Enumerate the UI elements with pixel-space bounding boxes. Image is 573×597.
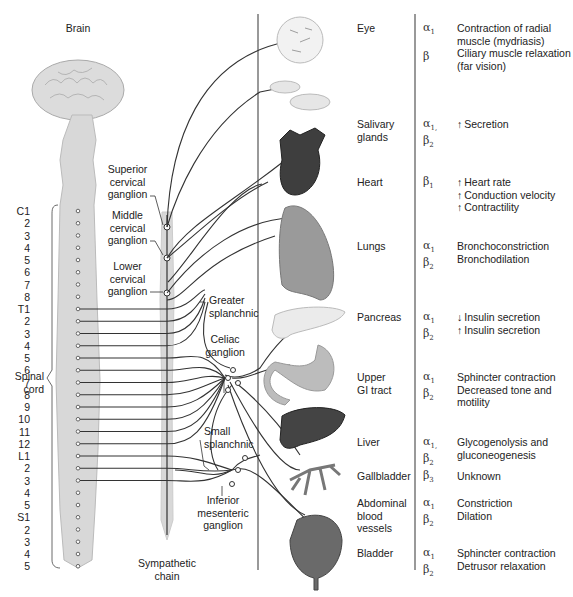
segment-label: 8: [4, 291, 30, 303]
organ-name: Gallbladder: [357, 470, 411, 483]
effect-list: Unknown: [457, 470, 501, 483]
segment-label: 6: [4, 364, 30, 376]
segment-label: 7: [4, 279, 30, 291]
effect-list: ↓Insulin secretion↑Insulin secretion: [457, 311, 540, 336]
segment-label: 11: [4, 426, 30, 438]
sympathetic-chain-label: Sympatheticchain: [132, 557, 202, 582]
organ-lung-illustration: [279, 206, 333, 300]
greater-splanchnic-label: Greatersplanchnic: [209, 294, 259, 319]
effect-list: Sphincter contractionDetrusor relaxation: [457, 547, 556, 572]
segment-label: 3: [4, 536, 30, 548]
receptor-list: α1β2: [423, 311, 435, 344]
organ-heart-illustration: [280, 128, 325, 195]
spinal-cord-illustration: [56, 115, 100, 568]
arrow-up-icon: ↑: [457, 324, 462, 336]
receptor-list: α1β2: [423, 497, 435, 530]
effect-list: BronchoconstrictionBronchodilation: [457, 240, 549, 265]
middle-cervical-ganglion-label: Middlecervicalganglion: [100, 209, 155, 247]
effect-list: ↑Secretion: [457, 118, 509, 131]
arrow-up-icon: ↑: [457, 118, 462, 130]
segment-label: 3: [4, 475, 30, 487]
segment-label: 5: [4, 254, 30, 266]
inferior-mesenteric-ganglion-label: Inferiormesentericganglion: [195, 494, 251, 532]
segment-label: 5: [4, 352, 30, 364]
segment-label: S1: [4, 511, 30, 523]
segment-label: 12: [4, 438, 30, 450]
segment-label: 3: [4, 230, 30, 242]
organ-name: Eye: [357, 22, 375, 35]
segment-label: 4: [4, 242, 30, 254]
organ-name: UpperGI tract: [357, 371, 391, 396]
segment-label: T1: [4, 303, 30, 315]
segment-label: 4: [4, 548, 30, 560]
organ-eye-illustration: [277, 17, 323, 63]
organ-name: Salivaryglands: [357, 118, 394, 143]
lower-cervical-ganglion-label: Lowercervicalganglion: [100, 260, 155, 298]
organ-salivary-illustration: [270, 81, 330, 110]
brain-label: Brain: [58, 22, 98, 35]
effect-list: ConstrictionDilation: [457, 497, 512, 522]
arrow-up-icon: ↑: [457, 176, 462, 188]
organ-pancreas-illustration: [272, 307, 345, 338]
receptor-list: α1β2: [423, 371, 435, 404]
segment-label: 2: [4, 315, 30, 327]
segment-label: 3: [4, 328, 30, 340]
organ-name: Abdominalbloodvessels: [357, 497, 407, 535]
receptor-list: α1β2: [423, 547, 435, 580]
organ-liver-illustration: [280, 408, 345, 449]
organ-stomach-illustration: [264, 345, 334, 405]
organ-name: Heart: [357, 176, 383, 189]
organ-name: Pancreas: [357, 311, 401, 324]
organ-name: Liver: [357, 436, 380, 449]
effect-list: Glycogenolysis andgluconeogenesis: [457, 436, 548, 461]
arrow-down-icon: ↓: [457, 311, 462, 323]
effect-list: ↑Heart rate↑Conduction velocity↑Contract…: [457, 176, 555, 214]
segment-label: 5: [4, 560, 30, 572]
segment-label: 2: [4, 217, 30, 229]
receptor-list: β3: [423, 470, 434, 487]
segment-label: 8: [4, 389, 30, 401]
segment-label: 4: [4, 487, 30, 499]
segment-label: 6: [4, 266, 30, 278]
arrow-up-icon: ↑: [457, 201, 462, 213]
arrow-up-icon: ↑: [457, 189, 462, 201]
receptor-list: α1,β2: [423, 118, 437, 151]
effect-list: Sphincter contractionDecreased tone andm…: [457, 371, 556, 409]
segment-label: 4: [4, 340, 30, 352]
receptor-list: α1,β2: [423, 436, 437, 469]
receptor-list: β1: [423, 176, 434, 193]
receptor-list: α1β: [423, 22, 435, 68]
organ-name: Bladder: [357, 547, 393, 560]
segment-label: C1: [4, 205, 30, 217]
segment-label: L1: [4, 450, 30, 462]
segment-label: 9: [4, 401, 30, 413]
brain-illustration: [32, 60, 124, 120]
celiac-ganglion-label: Celiacganglion: [200, 333, 250, 358]
effect-list: Contraction of radialmuscle (mydriasis)C…: [457, 22, 571, 72]
segment-label: 2: [4, 524, 30, 536]
organ-name: Lungs: [357, 240, 386, 253]
segment-label: 7: [4, 377, 30, 389]
segment-label: 5: [4, 499, 30, 511]
segment-label: 2: [4, 462, 30, 474]
receptor-list: α1β2: [423, 240, 435, 273]
segment-label: 10: [4, 413, 30, 425]
organ-bladder-illustration: [290, 515, 342, 590]
superior-cervical-ganglion-label: Superiorcervicalganglion: [100, 163, 155, 201]
small-splanchnic-label: Smallsplanchnic: [204, 425, 254, 450]
